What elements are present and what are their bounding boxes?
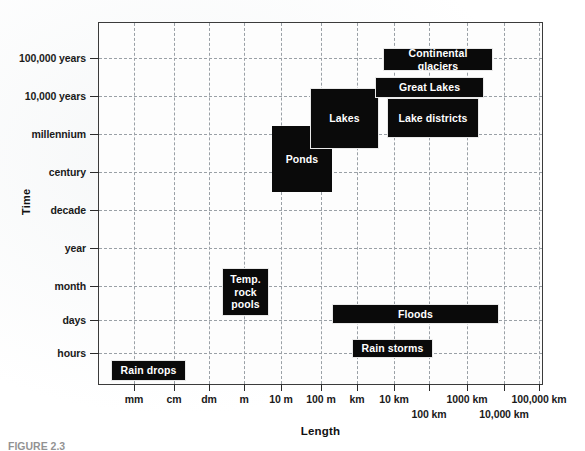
y-axis-title: Time — [20, 189, 32, 215]
y-axis-tick-label: days — [62, 314, 86, 326]
vertical-gridline — [174, 23, 175, 384]
plot-area: 100,000 years10,000 yearsmillenniumcentu… — [98, 22, 543, 385]
x-axis-title: Length — [99, 425, 542, 437]
x-axis-tick-label: 100 m — [306, 393, 335, 405]
y-axis-tick-label: 10,000 years — [25, 90, 86, 102]
figure-caption: FIGURE 2.3 — [8, 440, 578, 451]
data-box-continental-glaciers: Continental glaciers — [383, 48, 493, 71]
vertical-gridline — [134, 23, 135, 384]
x-axis-tick — [504, 384, 505, 391]
data-box-great-lakes: Great Lakes — [375, 77, 484, 98]
vertical-gridline — [321, 23, 322, 384]
x-axis-tick — [321, 384, 322, 391]
y-axis-tick — [90, 210, 99, 211]
data-box-floods: Floods — [332, 304, 499, 324]
x-axis-tick-label: 1000 km — [447, 393, 488, 405]
vertical-gridline — [504, 23, 505, 384]
y-axis-tick — [90, 58, 99, 59]
x-axis-tick — [134, 384, 135, 391]
x-axis-tick-label: 100 km — [411, 408, 446, 420]
x-axis-tick — [174, 384, 175, 391]
y-axis-tick — [90, 286, 99, 287]
vertical-gridline — [244, 23, 245, 384]
x-axis-tick — [539, 384, 540, 391]
y-axis-tick-label: decade — [50, 204, 86, 216]
y-axis-tick-label: month — [54, 280, 86, 292]
x-axis-tick-label: mm — [125, 393, 143, 405]
data-box-rain-drops: Rain drops — [111, 360, 186, 381]
data-box-lakes: Lakes — [310, 88, 379, 149]
y-axis-tick-label: 100,000 years — [19, 52, 86, 64]
data-box-temp-rock-pools: Temp.rockpools — [222, 268, 269, 316]
y-axis-tick — [90, 248, 99, 249]
x-axis-tick-label: dm — [201, 393, 217, 405]
x-axis-tick — [281, 384, 282, 391]
y-axis-tick — [90, 353, 99, 354]
y-axis-tick-label: millennium — [32, 128, 86, 140]
data-box-lake-districts: Lake districts — [387, 98, 479, 138]
x-axis-tick-label: cm — [167, 393, 182, 405]
x-axis-tick-label: 10 km — [379, 393, 408, 405]
data-box-rain-storms: Rain storms — [352, 339, 433, 358]
x-axis-tick-label: 10 m — [269, 393, 293, 405]
y-axis-tick — [90, 134, 99, 135]
y-axis-tick — [90, 320, 99, 321]
y-axis-tick — [90, 96, 99, 97]
x-axis-tick — [429, 384, 430, 391]
figure-container: Time 100,000 years10,000 yearsmillennium… — [0, 0, 585, 451]
vertical-gridline — [539, 23, 540, 384]
vertical-gridline — [281, 23, 282, 384]
y-axis-tick-label: century — [49, 166, 86, 178]
x-axis-tick — [467, 384, 468, 391]
x-axis-tick — [357, 384, 358, 391]
vertical-gridline — [209, 23, 210, 384]
x-axis-tick — [244, 384, 245, 391]
x-axis-tick — [209, 384, 210, 391]
x-axis-tick-label: 10,000 km — [479, 408, 528, 420]
y-axis-tick-label: hours — [57, 347, 86, 359]
x-axis-tick — [394, 384, 395, 391]
vertical-gridline — [357, 23, 358, 384]
x-axis-tick-label: m — [239, 393, 248, 405]
y-axis-tick-label: year — [65, 242, 86, 254]
x-axis-tick-label: 100,000 km — [511, 393, 566, 405]
x-axis-tick-label: km — [350, 393, 365, 405]
y-axis-tick — [90, 172, 99, 173]
